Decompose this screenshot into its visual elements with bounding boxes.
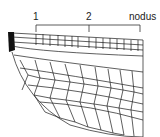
bracket	[36, 25, 140, 32]
wing-veins	[12, 33, 143, 137]
wing-diagram	[0, 0, 160, 137]
